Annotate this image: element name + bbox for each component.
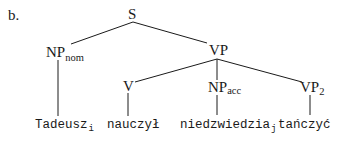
example-label: b. xyxy=(8,8,19,23)
node-np-acc-label: NP xyxy=(208,79,227,95)
node-v: V xyxy=(123,79,134,94)
leaf-tanczyc: tańczyć xyxy=(278,119,331,132)
node-np-acc: NPacc xyxy=(208,80,241,95)
node-vp-label: VP xyxy=(209,42,228,58)
leaf-tanczyc-text: tańczyć xyxy=(278,118,331,132)
node-s-label: S xyxy=(128,6,136,22)
syntax-tree-diagram: b. S NPnom VP V NPacc VP2 Tadeuszi naucz… xyxy=(0,0,344,144)
node-vp2: VP2 xyxy=(300,80,324,95)
node-s: S xyxy=(128,7,136,22)
edge-vp-v xyxy=(135,59,217,82)
leaf-tadeusz: Tadeuszi xyxy=(35,119,94,132)
edge-vp-vp2 xyxy=(217,59,302,82)
leaf-niedzwiedzia-index: j xyxy=(271,124,276,134)
leaf-nauczyl-text: nauczył xyxy=(107,118,160,132)
node-np-nom-label: NP xyxy=(46,44,65,60)
node-np-acc-subscript: acc xyxy=(227,85,241,96)
node-v-label: V xyxy=(123,78,134,94)
leaf-tadeusz-text: Tadeusz xyxy=(35,118,88,132)
leaf-niedzwiedzia-text: niedzwiedzia xyxy=(180,118,270,132)
node-vp: VP xyxy=(209,43,228,58)
leaf-niedzwiedzia: niedzwiedziaj xyxy=(180,119,276,132)
leaf-tadeusz-index: i xyxy=(89,124,94,134)
leaf-nauczyl: nauczył xyxy=(107,119,160,132)
edge-s-npnom xyxy=(71,22,133,44)
node-np-nom: NPnom xyxy=(46,45,84,60)
node-vp2-label: VP xyxy=(300,79,319,95)
node-vp2-subscript: 2 xyxy=(319,86,324,97)
node-np-nom-subscript: nom xyxy=(65,52,84,63)
edge-s-vp xyxy=(133,22,207,43)
